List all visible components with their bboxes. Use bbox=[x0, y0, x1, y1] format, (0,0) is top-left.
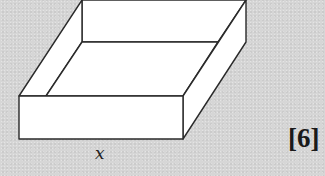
marks-label: [6] bbox=[288, 123, 319, 154]
edge-label-x: x bbox=[95, 143, 105, 163]
back-wall bbox=[82, 0, 246, 42]
front-face bbox=[19, 96, 183, 139]
open-box-diagram bbox=[0, 0, 325, 176]
